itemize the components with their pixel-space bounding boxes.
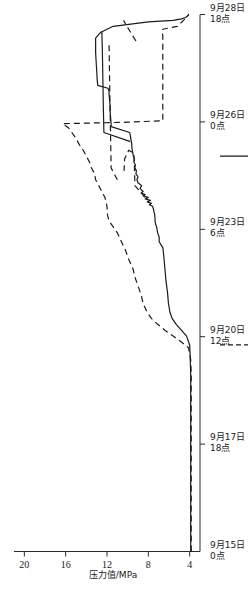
series-line — [63, 14, 192, 551]
x-tick-label-line1: 9月26日 — [210, 109, 245, 119]
pressure-time-line-chart: 9月15日0点9月17日18点9月20日12点9月23日6点9月26日0点9月2… — [0, 0, 248, 607]
series-group — [63, 14, 192, 551]
x-tick-label: 9月26日0点 — [210, 109, 245, 130]
y-axis-tick-labels: 48121620 — [19, 558, 192, 569]
x-tick-label-line2: 6点 — [210, 228, 225, 238]
x-tick-label: 9月15日0点 — [210, 539, 245, 560]
x-tick-label-line2: 18点 — [210, 13, 230, 23]
x-tick-label: 9月20日12点 — [210, 324, 245, 345]
x-tick-label-line1: 9月15日 — [210, 539, 245, 549]
y-tick-label-text: 20 — [19, 558, 29, 569]
x-tick-label-line1: 9月17日 — [210, 432, 245, 442]
x-tick-label-line1: 9月23日 — [210, 217, 245, 227]
x-axis-tick-labels: 9月15日0点9月17日18点9月20日12点9月23日6点9月26日0点9月2… — [210, 2, 245, 560]
chart-legend: 浅基点：9 m(103号)曲线深基点：15 m(104号)曲线 — [220, 136, 248, 345]
chart-figure-root: 9月15日0点9月17日18点9月20日12点9月23日6点9月26日0点9月2… — [0, 0, 248, 607]
y-axis-caption-group: 压力值/MPa — [89, 568, 137, 579]
x-tick-label-line1: 9月28日 — [210, 2, 245, 12]
series-line — [96, 14, 191, 551]
y-tick-label-text: 8 — [146, 558, 151, 569]
x-tick-label: 9月28日18点 — [210, 2, 245, 23]
y-tick-label-text: 12 — [102, 558, 112, 569]
x-tick-label: 9月17日18点 — [210, 432, 245, 453]
rotated-figure-wrapper: 9月15日0点9月17日18点9月20日12点9月23日6点9月26日0点9月2… — [0, 0, 248, 607]
series-branch — [124, 20, 136, 41]
x-tick-label-line2: 12点 — [210, 335, 230, 345]
y-tick-label: 20 — [19, 558, 29, 569]
secondary-segments-group — [102, 20, 145, 197]
series-branch — [102, 32, 130, 141]
x-tick-label-line2: 18点 — [210, 443, 230, 453]
y-axis-caption: 压力值/MPa — [89, 568, 137, 579]
x-tick-label-line2: 0点 — [210, 550, 225, 560]
y-tick-label-text: 4 — [187, 558, 192, 569]
x-tick-label: 9月23日6点 — [210, 217, 245, 238]
y-tick-label-text: 16 — [61, 558, 71, 569]
x-tick-label-line1: 9月20日 — [210, 324, 245, 334]
y-tick-label: 4 — [187, 558, 192, 569]
x-axis-ticks — [200, 14, 205, 551]
y-tick-label: 16 — [61, 558, 71, 569]
y-tick-label: 8 — [146, 558, 151, 569]
x-tick-label-line2: 0点 — [210, 120, 225, 130]
y-tick-label: 12 — [102, 558, 112, 569]
y-axis-caption-text: 压力值/MPa — [89, 568, 137, 579]
